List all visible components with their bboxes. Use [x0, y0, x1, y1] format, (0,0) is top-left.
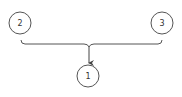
- merge-diagram: 2 3 1: [0, 0, 182, 97]
- node-3-label: 3: [159, 19, 164, 28]
- node-2-label: 2: [17, 19, 22, 28]
- node-2: 2: [9, 12, 31, 34]
- node-1-label: 1: [85, 72, 90, 81]
- merge-bracket: [21, 40, 162, 47]
- node-1: 1: [77, 65, 99, 87]
- node-3: 3: [151, 12, 173, 34]
